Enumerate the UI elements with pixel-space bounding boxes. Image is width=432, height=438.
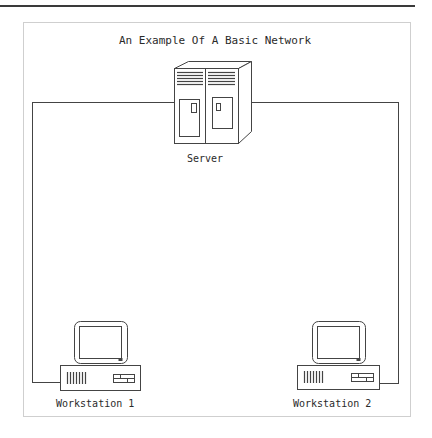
diagram-title-text: An Example Of A Basic Network — [119, 34, 311, 47]
desktop-computer-icon — [61, 322, 141, 391]
network-diagram — [0, 0, 432, 438]
desktop-computer-icon — [298, 322, 380, 390]
workstation1-label: Workstation 1 — [56, 398, 134, 409]
diagram-title: An Example Of A Basic Network — [0, 34, 432, 47]
connection-server-workstation1 — [33, 103, 176, 383]
workstation2-label: Workstation 2 — [293, 398, 371, 409]
server-label: Server — [187, 153, 223, 164]
connection-server-workstation2 — [252, 103, 399, 384]
server-cabinet-icon — [175, 62, 252, 144]
